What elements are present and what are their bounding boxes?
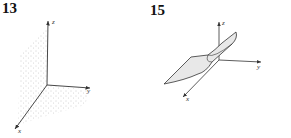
- z-axis: [47, 21, 48, 85]
- y-axis-label: y: [86, 87, 91, 95]
- y-axis: [219, 60, 261, 62]
- z-axis-label: z: [51, 18, 55, 26]
- x-axis-label: x: [185, 95, 190, 103]
- figure-13-diagram: z y x: [15, 18, 91, 135]
- figure-15-diagram: z y x: [164, 19, 261, 103]
- x-axis-label: x: [17, 127, 22, 135]
- z-axis-label: z: [221, 19, 225, 27]
- y-axis-label: y: [256, 63, 261, 71]
- curved-surface: [164, 32, 237, 84]
- figures-canvas: z y x z y x: [0, 0, 291, 138]
